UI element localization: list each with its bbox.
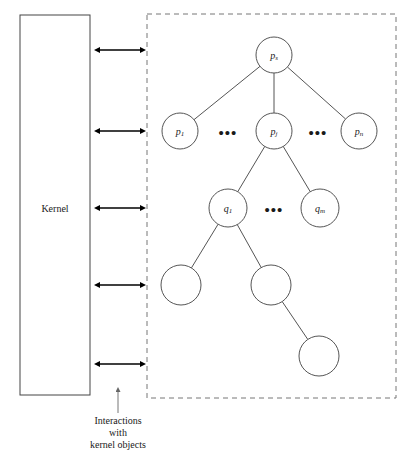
ellipsis-between-q1-qm: •••: [265, 202, 284, 218]
tree-edge-pj-to-q1: [238, 146, 265, 191]
process-tree-diagram: Kernel psp1pjpnq1qm ••••••••• Interactio…: [0, 0, 413, 475]
node-circle-leaf3: [299, 336, 339, 376]
caption-line-2: with: [109, 427, 127, 438]
caption-line-1: Interactions: [94, 415, 141, 426]
ellipsis-between-p1-pj: •••: [219, 125, 238, 141]
tree-node-leaf3[interactable]: [299, 336, 339, 376]
tree-node-ps[interactable]: ps: [256, 37, 292, 73]
caption-line-3: kernel objects: [90, 439, 146, 450]
kernel-label: Kernel: [41, 203, 68, 214]
node-circle-leaf2: [251, 265, 291, 305]
figure-canvas: Kernel psp1pjpnq1qm ••••••••• Interactio…: [0, 0, 413, 475]
tree-edge-ps-to-p1: [194, 66, 260, 119]
node-circle-leaf1: [161, 265, 201, 305]
tree-node-leaf1[interactable]: [161, 265, 201, 305]
tree-edge-ps-to-pn: [287, 67, 345, 119]
tree-node-p1[interactable]: p1: [162, 113, 198, 149]
tree-edge-leaf2-to-leaf3: [282, 302, 308, 340]
tree-node-qm[interactable]: qm: [301, 189, 339, 227]
tree-edge-pj-to-qm: [283, 146, 310, 191]
tree-node-leaf2[interactable]: [251, 265, 291, 305]
ellipsis-between-pj-pn: •••: [309, 125, 328, 141]
tree-edge-q1-to-leaf2: [237, 225, 261, 268]
tree-node-pj[interactable]: pj: [256, 113, 292, 149]
tree-edge-q1-to-leaf1: [191, 224, 218, 268]
tree-node-q1[interactable]: q1: [209, 189, 247, 227]
interaction-arrows-group: [100, 50, 140, 364]
tree-node-pn[interactable]: pn: [341, 113, 377, 149]
